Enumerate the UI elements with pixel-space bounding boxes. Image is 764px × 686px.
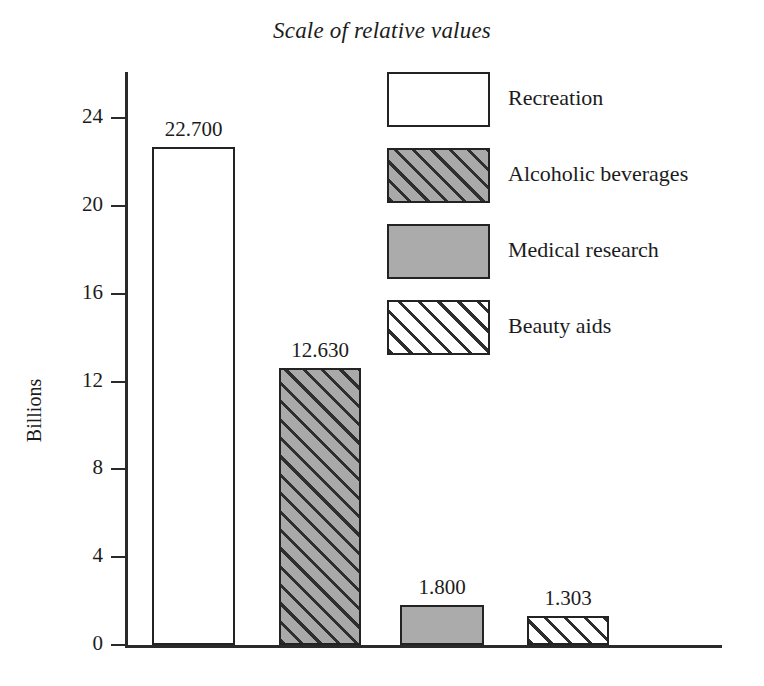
bar-value-label: 22.700 xyxy=(132,117,255,142)
bar-alcoholic-beverages xyxy=(279,368,361,645)
legend-label: Medical research xyxy=(508,237,659,263)
legend-swatch xyxy=(387,148,490,203)
legend-label: Beauty aids xyxy=(508,313,611,339)
bar-value-label: 12.630 xyxy=(259,338,381,363)
legend-swatch xyxy=(387,224,490,279)
plot-area: 22.70012.6301.8001.303 xyxy=(0,0,764,645)
x-axis-line xyxy=(125,645,722,648)
legend-label: Recreation xyxy=(508,85,603,111)
bar-value-label: 1.800 xyxy=(380,575,504,600)
legend-label: Alcoholic beverages xyxy=(508,161,688,187)
bar-chart: Scale of relative values Billions 048121… xyxy=(0,0,764,686)
bar-beauty-aids xyxy=(527,616,609,645)
legend-swatch xyxy=(387,300,490,355)
legend-swatch xyxy=(387,72,490,127)
bar-medical-research xyxy=(400,605,484,645)
bar-value-label: 1.303 xyxy=(507,586,629,611)
bar-recreation xyxy=(152,147,235,645)
